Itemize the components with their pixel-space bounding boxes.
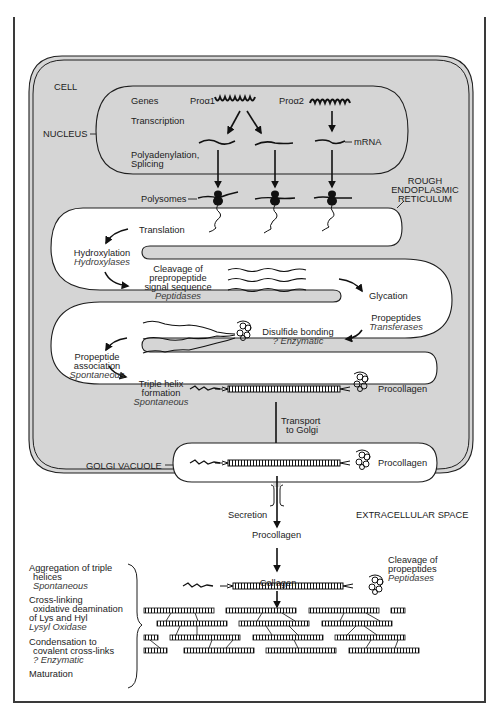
transferases-enzyme: Transferases [366, 322, 426, 332]
glycation-label: Glycation [369, 291, 408, 301]
transport-label-2: to Golgi [286, 425, 318, 435]
disulfide-enzyme: ? Enzymatic [258, 336, 338, 346]
procollagen-extracellular-label: Procollagen [252, 530, 301, 540]
condensation-enzyme: ? Enzymatic [33, 655, 84, 665]
nucleus-label: NUCLEUS [43, 129, 87, 139]
translation-label: Translation [139, 225, 185, 235]
gene-proa1-label: Proα1 [190, 96, 215, 106]
crosslinking-enzyme: Lysyl Oxidase [29, 622, 87, 632]
secretion-label: Secretion [228, 510, 267, 520]
maturation-bracket [128, 564, 142, 688]
peptidases-enzyme-extracellular: Peptidases [388, 573, 434, 583]
splicing-label: Splicing [131, 159, 164, 169]
golgi-vacuole-label: GOLGI VACUOLE [86, 461, 162, 471]
propeptide-association-enzyme: Spontaneous [66, 370, 128, 380]
peptidases-enzyme-er: Peptidases [140, 291, 216, 301]
procollagen-er-label: Procollagen [378, 384, 427, 394]
gene-proa2-label: Proα2 [279, 96, 304, 106]
triple-helix-enzyme: Spontaneous [130, 397, 192, 407]
maturation-label: Maturation [29, 669, 73, 679]
collagen-fibrils [144, 608, 419, 653]
collagen-label: Collagen [250, 578, 306, 588]
cell-label: CELL [54, 82, 77, 92]
polysomes-label: Polysomes [141, 194, 186, 204]
transcription-label: Transcription [131, 116, 184, 126]
procollagen-golgi-label: Procollagen [378, 458, 427, 468]
rough-er-label-line3: RETICULUM [385, 194, 465, 204]
genes-label: Genes [131, 96, 158, 106]
aggregation-enzyme: Spontaneous [33, 581, 88, 591]
extracellular-space-label: EXTRACELLULAR SPACE [356, 510, 468, 520]
mrna-label: mRNA [354, 137, 381, 147]
hydroxylases-enzyme: Hydroxylases [70, 257, 134, 267]
